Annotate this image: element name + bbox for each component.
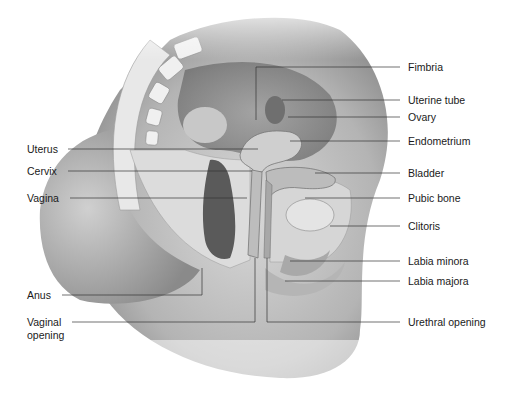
label-labia-minora: Labia minora [408,255,469,268]
label-cervix: Cervix [27,165,57,178]
label-anus: Anus [27,289,51,302]
label-fimbria: Fimbria [408,61,443,74]
label-vaginal-opening-line2: opening [27,329,64,342]
intestine [183,107,227,143]
label-endometrium: Endometrium [408,135,470,148]
label-vagina: Vagina [27,192,59,205]
label-clitoris: Clitoris [408,220,440,233]
label-vaginal-opening-line1: Vaginal [27,316,61,329]
label-pubic-bone: Pubic bone [408,192,461,205]
label-uterus: Uterus [27,143,58,156]
label-bladder: Bladder [408,167,444,180]
anatomy-diagram: Uterus Cervix Vagina Anus Vaginal openin… [0,0,514,400]
label-urethral-opening: Urethral opening [408,316,486,329]
label-labia-majora: Labia majora [408,275,469,288]
label-ovary: Ovary [408,111,436,124]
pubic-bone [286,199,334,231]
label-uterine-tube: Uterine tube [408,94,465,107]
